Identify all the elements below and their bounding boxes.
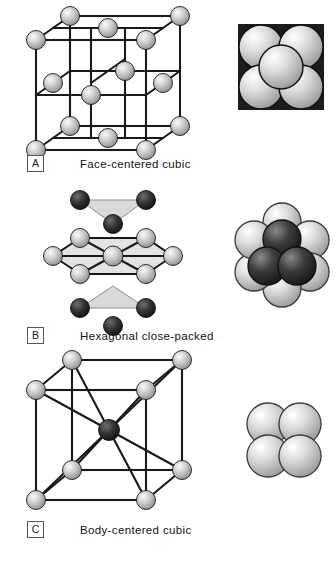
body-centered-cubic-sphere-packing [242,398,326,482]
face-centered-cubic-unit-cell [18,8,218,158]
caption-hexagonal-close-packed: B Hexagonal close-packed [27,327,214,344]
panel-face-centered-cubic: A Face-centered cubic [0,8,336,188]
hexagonal-close-packed-sphere-packing [236,202,328,306]
caption-face-centered-cubic: A Face-centered cubic [27,155,191,172]
panel-letter-b: B [27,327,44,344]
face-centered-cubic-sphere-packing [234,20,328,120]
panel-body-centered-cubic: C Body-centered cubic [0,352,336,552]
body-centered-cubic-unit-cell [18,352,218,512]
hexagonal-close-packed-unit-cell [18,186,218,326]
caption-body-centered-cubic: C Body-centered cubic [27,521,192,538]
crystal-structures-figure: A Face-centered cubic [0,0,336,561]
panel-letter-a: A [27,155,44,172]
panel-hexagonal-close-packed: B Hexagonal close-packed [0,186,336,356]
caption-text-a: Face-centered cubic [80,158,191,170]
caption-text-c: Body-centered cubic [80,524,192,536]
caption-text-b: Hexagonal close-packed [80,330,214,342]
panel-letter-c: C [27,521,44,538]
